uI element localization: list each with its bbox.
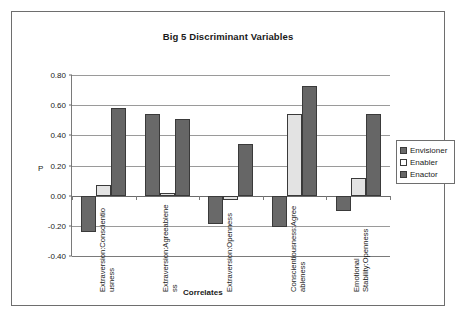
x-axis-category-label-line: Conscientiousness:Agree: [290, 206, 299, 292]
y-axis-tick-label: -0.40: [48, 252, 66, 261]
y-axis-label: P: [38, 164, 43, 173]
y-axis-tick-label: 0.80: [50, 71, 66, 80]
bar-enactor: [111, 108, 126, 195]
y-axis-tick-label: 0.00: [50, 191, 66, 200]
x-axis-category-label: EmotionalStability:Openness: [353, 228, 370, 291]
bar-envisioner: [336, 196, 351, 211]
bar-enabler: [351, 178, 366, 196]
y-axis-tick-label: 0.20: [50, 161, 66, 170]
bar-enactor: [366, 114, 381, 195]
legend-item-envisioner[interactable]: Envisioner: [400, 144, 451, 156]
chart-legend: EnvisionerEnablerEnactor: [396, 140, 455, 184]
x-axis-category-label-line: Stability:Openness: [362, 228, 371, 291]
bar-enabler: [160, 193, 175, 196]
x-axis-category-label-line: usness: [107, 208, 116, 292]
x-axis-category-label: Conscientiousness:Agreeableness: [290, 206, 307, 292]
bar-envisioner: [208, 196, 223, 225]
legend-label: Enactor: [410, 170, 438, 179]
x-axis-category-label-line: Extraversion:Openness: [226, 213, 235, 292]
bar-enabler: [223, 196, 238, 201]
chart-title: Big 5 Discriminant Variables: [12, 31, 444, 42]
x-axis-tick-mark: [72, 196, 73, 200]
bar-enabler: [287, 114, 302, 195]
legend-swatch-icon: [400, 159, 407, 166]
legend-label: Envisioner: [410, 146, 447, 155]
legend-item-enactor[interactable]: Enactor: [400, 168, 451, 180]
x-axis-category-label-line: Extraversion:Agreeablene: [162, 204, 171, 291]
bar-enactor: [302, 86, 317, 196]
bar-enactor: [238, 144, 253, 195]
x-axis-label: Correlates: [183, 288, 223, 297]
legend-swatch-icon: [400, 147, 407, 154]
bar-envisioner: [272, 196, 287, 228]
y-axis-tick-label: 0.60: [50, 101, 66, 110]
legend-item-enabler[interactable]: Enabler: [400, 156, 451, 168]
bar-enactor: [175, 119, 190, 196]
bar-enabler: [96, 185, 111, 196]
y-axis-tick-label: 0.40: [50, 131, 66, 140]
legend-label: Enabler: [410, 158, 438, 167]
chart-container: Big 5 Discriminant Variables P 0.800.600…: [11, 11, 445, 306]
x-axis-category-label-line: ableness: [298, 206, 307, 292]
x-axis-category-label-line: ss: [171, 204, 180, 291]
bar-envisioner: [145, 114, 160, 195]
legend-swatch-icon: [400, 171, 407, 178]
x-axis-category-label: Extraversion:Agreeableness: [162, 204, 179, 291]
x-axis-category-label: Extraversion:Openness: [226, 213, 235, 292]
y-axis-tick-label: -0.20: [48, 221, 66, 230]
x-axis-tick-mark: [390, 196, 391, 200]
x-axis-category-label: Extraversion:Conscientiousness: [99, 208, 116, 292]
bar-envisioner: [81, 196, 96, 232]
